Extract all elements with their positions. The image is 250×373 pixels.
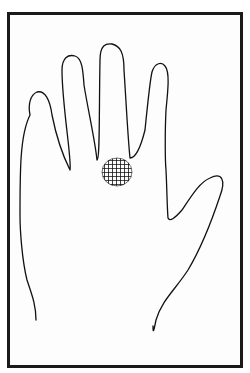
hand-diagram	[0, 0, 250, 373]
marked-spot	[102, 158, 132, 186]
hand-outline	[20, 44, 223, 331]
